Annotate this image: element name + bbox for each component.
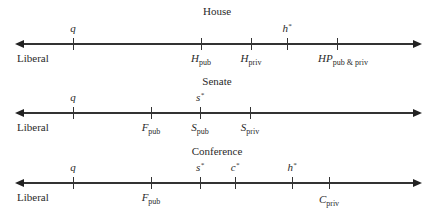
tick-f-pub xyxy=(151,177,152,189)
label-s-star: s* xyxy=(196,161,204,173)
label-f-pub: Fpub xyxy=(142,121,161,136)
tick-q xyxy=(73,38,74,50)
label-q: q xyxy=(70,22,76,34)
left-arrow-icon xyxy=(15,40,24,48)
tick-c-star xyxy=(235,177,236,189)
tick-h-star xyxy=(292,177,293,189)
tick-s-star xyxy=(200,177,201,189)
label-q: q xyxy=(70,91,76,103)
senate-axis xyxy=(20,112,416,114)
label-s-pub: Spub xyxy=(191,121,209,136)
house-panel: House q Hpub Hpriv h* HPpub & priv Liber… xyxy=(0,0,437,70)
conference-panel: Conference q Fpub s* c* h* Cpriv Liberal xyxy=(0,140,437,217)
right-arrow-icon xyxy=(413,109,422,117)
tick-q xyxy=(73,107,74,119)
tick-q xyxy=(73,177,74,189)
label-h-star: h* xyxy=(283,22,292,34)
label-hp-pub-priv: HPpub & priv xyxy=(318,52,368,67)
liberal-label: Liberal xyxy=(17,52,49,64)
senate-panel: Senate q Fpub s* Spub Spriv Liberal xyxy=(0,70,437,140)
label-c-star: c* xyxy=(231,161,239,173)
house-title: House xyxy=(203,5,231,17)
tick-hp-pub-priv xyxy=(337,38,338,50)
tick-s-pub xyxy=(200,107,201,119)
label-h-star: h* xyxy=(288,161,297,173)
label-f-pub: Fpub xyxy=(142,191,161,206)
label-h-priv: Hpriv xyxy=(241,52,262,67)
liberal-label: Liberal xyxy=(17,191,49,203)
tick-h-pub xyxy=(201,38,202,50)
tick-s-priv xyxy=(250,107,251,119)
house-axis xyxy=(20,43,416,45)
right-arrow-icon xyxy=(413,40,422,48)
conference-title: Conference xyxy=(192,145,243,157)
liberal-label: Liberal xyxy=(17,121,49,133)
label-h-pub: Hpub xyxy=(191,52,211,67)
tick-f-pub xyxy=(151,107,152,119)
left-arrow-icon xyxy=(15,179,24,187)
senate-title: Senate xyxy=(202,75,231,87)
label-q: q xyxy=(70,161,76,173)
label-s-star: s* xyxy=(196,91,204,103)
tick-h-priv xyxy=(251,38,252,50)
label-c-priv: Cpriv xyxy=(319,193,339,208)
right-arrow-icon xyxy=(413,179,422,187)
tick-h-star xyxy=(287,38,288,50)
conference-axis xyxy=(20,182,416,184)
label-s-priv: Spriv xyxy=(241,121,259,136)
tick-c-priv xyxy=(329,177,330,189)
left-arrow-icon xyxy=(15,109,24,117)
